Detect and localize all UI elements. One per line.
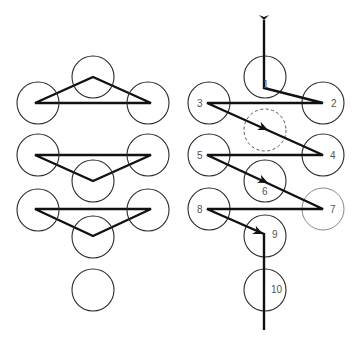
circle-label-1: 1 <box>263 79 269 90</box>
pin-circle <box>72 269 114 311</box>
sequence-path <box>207 20 323 330</box>
circle-label-7: 7 <box>330 204 336 215</box>
circle-label-9: 9 <box>272 229 278 240</box>
circle-label-4: 4 <box>330 150 336 161</box>
left-pin-groups <box>17 56 169 311</box>
circle-label-6: 6 <box>262 186 268 197</box>
triangle-path-1 <box>35 77 151 103</box>
circle-label-10: 10 <box>271 284 283 295</box>
circle-label-2: 2 <box>331 98 337 109</box>
arrow-3-to-4-icon <box>257 122 270 134</box>
circle-label-3: 3 <box>197 98 203 109</box>
circle-label-5: 5 <box>197 150 203 161</box>
triangle-path-2 <box>35 155 151 181</box>
stitch-sequence-diagram: 12345678910 <box>0 0 357 347</box>
right-numbered-sequence: 12345678910 <box>188 15 344 330</box>
arrow-entry-icon <box>259 15 269 20</box>
triangle-path-3 <box>35 209 151 236</box>
circle-label-8: 8 <box>197 204 203 215</box>
